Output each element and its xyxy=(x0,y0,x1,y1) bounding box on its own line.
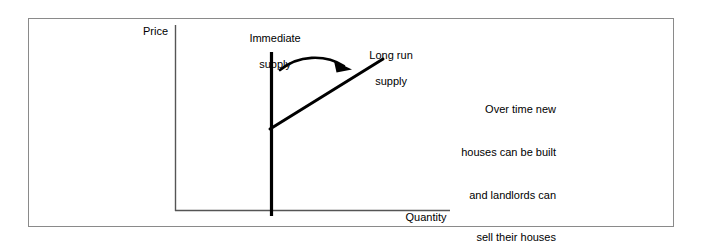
note-line: sell their houses xyxy=(396,230,556,244)
note-line: Over time new xyxy=(396,102,556,116)
note-line: houses can be built xyxy=(396,145,556,159)
immediate-supply-label-line-1: Immediate xyxy=(249,32,300,44)
immediate-supply-label-line-2: supply xyxy=(259,58,291,70)
y-axis-label: Price xyxy=(143,25,168,38)
explanatory-note: Over time new houses can be built and la… xyxy=(396,74,556,244)
immediate-supply-label: Immediate supply xyxy=(230,19,314,71)
long-run-supply-label-line-1: Long run xyxy=(369,49,412,61)
note-line: and landlords can xyxy=(396,188,556,202)
